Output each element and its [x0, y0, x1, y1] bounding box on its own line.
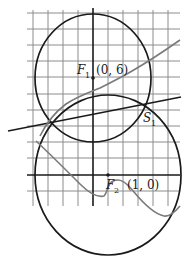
svg-text:1: 1	[85, 71, 90, 80]
svg-text:2: 2	[114, 186, 119, 195]
point-f1	[91, 76, 95, 80]
axes	[27, 8, 180, 206]
svg-text:1: 1	[151, 119, 156, 128]
svg-text:(1, 0): (1, 0)	[127, 178, 159, 192]
geometry-diagram: F 1 (0, 6) F 2 (1, 0) S 1	[0, 0, 192, 268]
svg-text:(0, 6): (0, 6)	[96, 63, 128, 77]
upper-gray-curve	[40, 40, 180, 136]
svg-text:S: S	[143, 111, 151, 125]
label-f2: F 2 (1, 0)	[105, 178, 159, 195]
grid	[27, 10, 180, 206]
point-f2	[106, 173, 110, 177]
